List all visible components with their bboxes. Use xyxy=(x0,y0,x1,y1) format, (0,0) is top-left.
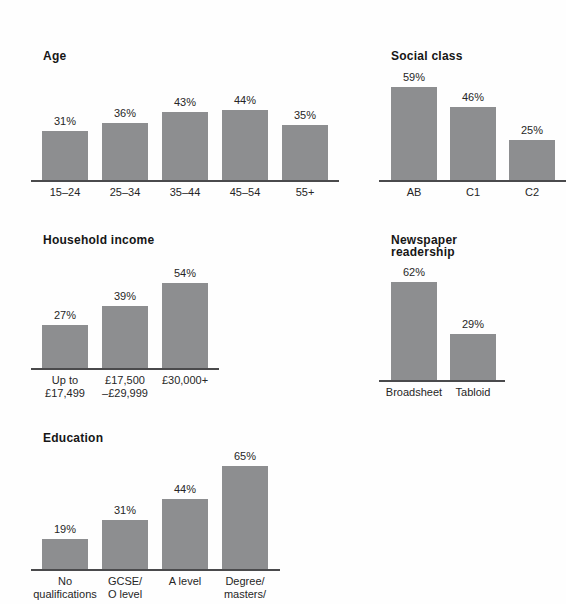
bar xyxy=(162,499,208,569)
category-label: 25–34 xyxy=(110,186,141,199)
bar-value-label: 54% xyxy=(174,267,196,279)
category-axis: BroadsheetTabloid xyxy=(379,382,505,414)
category-label: 55+ xyxy=(296,186,315,199)
category-label: 15–24 xyxy=(50,186,81,199)
category-label: Degree/ masters/ xyxy=(224,575,266,601)
bar-value-label: 31% xyxy=(114,504,136,516)
bar xyxy=(509,140,555,180)
bar-value-label: 46% xyxy=(462,91,484,103)
plot-area: 27%39%54% xyxy=(31,246,219,370)
chart-household-income: Household income 27%39%54% Up to £17,499… xyxy=(31,234,219,402)
category-axis: ABC1C2 xyxy=(379,182,566,214)
bar xyxy=(42,131,88,180)
bar xyxy=(102,123,148,180)
bar-value-label: 27% xyxy=(54,309,76,321)
plot-area: 62%29% xyxy=(379,258,505,382)
bar xyxy=(391,87,437,180)
figure-canvas: { "style": { "bar_color": "#8d8e90", "ax… xyxy=(0,0,566,604)
bar xyxy=(162,112,208,180)
bar-value-label: 39% xyxy=(114,290,136,302)
category-label: Broadsheet xyxy=(386,386,442,399)
bar xyxy=(102,520,148,569)
category-label: C2 xyxy=(525,186,539,199)
category-label: Up to £17,499 xyxy=(45,374,85,400)
chart-newspaper-readership: Newspaper readership 62%29% BroadsheetTa… xyxy=(379,234,505,414)
category-axis: 15–2425–3435–4445–5455+ xyxy=(31,182,339,214)
category-label: GCSE/ O level xyxy=(108,575,142,601)
category-label: Tabloid xyxy=(456,386,491,399)
category-axis: No qualificationsGCSE/ O levelA levelDeg… xyxy=(31,571,280,603)
chart-title-newspaper-readership: Newspaper readership xyxy=(391,234,505,258)
bar xyxy=(42,539,88,569)
bar-value-label: 31% xyxy=(54,115,76,127)
chart-title-education: Education xyxy=(43,432,280,444)
bar xyxy=(102,306,148,368)
chart-title-age: Age xyxy=(43,50,339,62)
plot-area: 59%46%25% xyxy=(379,62,566,182)
plot-area: 19%31%44%65% xyxy=(31,444,280,571)
bar-value-label: 62% xyxy=(403,266,425,278)
chart-title-household-income: Household income xyxy=(43,234,219,246)
category-label: AB xyxy=(407,186,422,199)
chart-age: Age 31%36%43%44%35% 15–2425–3435–4445–54… xyxy=(31,50,339,214)
chart-social-class: Social class 59%46%25% ABC1C2 xyxy=(379,50,566,214)
bar-value-label: 59% xyxy=(403,71,425,83)
plot-area: 31%36%43%44%35% xyxy=(31,62,339,182)
bar xyxy=(391,282,437,380)
bar-value-label: 19% xyxy=(54,523,76,535)
chart-title-social-class: Social class xyxy=(391,50,566,62)
bar-value-label: 44% xyxy=(174,483,196,495)
category-label: No qualifications xyxy=(33,575,97,601)
category-label: £30,000+ xyxy=(162,374,208,387)
category-label: 35–44 xyxy=(170,186,201,199)
bar-value-label: 29% xyxy=(462,318,484,330)
bar-value-label: 44% xyxy=(234,94,256,106)
bar xyxy=(42,325,88,368)
chart-education: Education 19%31%44%65% No qualifications… xyxy=(31,432,280,603)
category-axis: Up to £17,499£17,500 –£29,999£30,000+ xyxy=(31,370,219,402)
category-label: 45–54 xyxy=(230,186,261,199)
bar-value-label: 43% xyxy=(174,96,196,108)
bar xyxy=(222,466,268,569)
bar xyxy=(222,110,268,180)
category-label: A level xyxy=(169,575,201,588)
bar-value-label: 36% xyxy=(114,107,136,119)
bar xyxy=(450,334,496,380)
bar-value-label: 35% xyxy=(294,109,316,121)
category-label: £17,500 –£29,999 xyxy=(102,374,148,400)
bar-value-label: 25% xyxy=(521,124,543,136)
bar xyxy=(162,283,208,368)
bar-value-label: 65% xyxy=(234,450,256,462)
bar xyxy=(282,125,328,180)
category-label: C1 xyxy=(466,186,480,199)
bar xyxy=(450,107,496,180)
